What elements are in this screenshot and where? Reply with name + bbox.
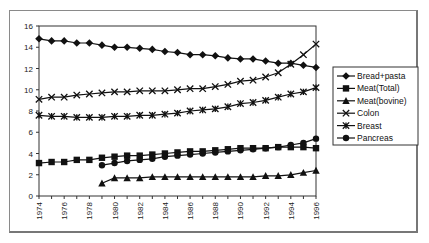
- legend-label: Bread+pasta: [357, 71, 406, 81]
- series-bread-pasta: [35, 35, 320, 71]
- x-tick-label: 1996: [312, 201, 321, 219]
- y-tick-label: 14: [24, 43, 33, 52]
- legend-label: Colon: [357, 108, 379, 118]
- legend-label: Meat(Total): [357, 83, 400, 93]
- x-tick-label: 1984: [161, 201, 170, 219]
- y-tick-label: 16: [24, 22, 33, 31]
- x-tick-label: 1992: [262, 201, 271, 219]
- x-tick-label: 1974: [35, 201, 44, 219]
- x-tick-label: 1976: [60, 201, 69, 219]
- x-tick-label: 1994: [287, 201, 296, 219]
- series-pancreas: [99, 135, 319, 168]
- line-chart: 0246810121416197419761978198019821984198…: [0, 0, 429, 243]
- y-tick-label: 8: [29, 107, 34, 116]
- x-tick-label: 1980: [111, 201, 120, 219]
- series-group: [35, 35, 320, 187]
- legend: Bread+pastaMeat(Total)Meat(bovine)ColonB…: [333, 67, 418, 145]
- legend-item: Colon: [337, 108, 379, 118]
- y-tick-label: 0: [29, 192, 34, 201]
- x-tick-label: 1988: [211, 201, 220, 219]
- legend-label: Pancreas: [357, 133, 393, 143]
- y-tick-label: 6: [29, 128, 34, 137]
- x-tick-label: 1986: [186, 201, 195, 219]
- x-tick-label: 1982: [136, 201, 145, 219]
- legend-label: Meat(bovine): [357, 96, 407, 106]
- y-tick-label: 12: [24, 65, 33, 74]
- y-tick-label: 2: [29, 171, 34, 180]
- series-meat-bovine-: [98, 167, 319, 187]
- x-tick-label: 1978: [85, 201, 94, 219]
- legend-label: Breast: [357, 121, 382, 131]
- y-tick-label: 10: [24, 86, 33, 95]
- x-tick-label: 1990: [236, 201, 245, 219]
- y-tick-label: 4: [29, 150, 34, 159]
